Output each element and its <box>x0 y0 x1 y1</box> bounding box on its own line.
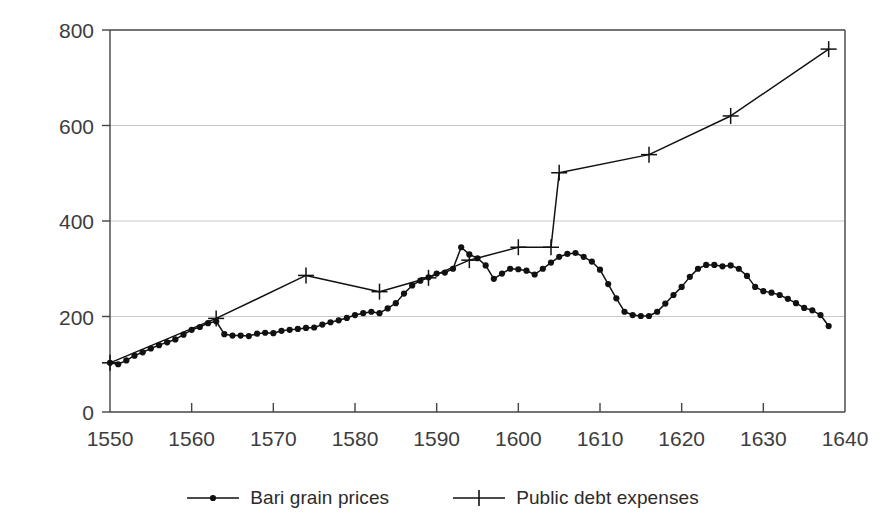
legend-item-bari-grain-prices[interactable]: Bari grain prices <box>185 487 389 509</box>
svg-text:1600: 1600 <box>495 427 542 450</box>
svg-text:1550: 1550 <box>87 427 134 450</box>
dot-line-marker-icon <box>185 490 241 506</box>
svg-text:1560: 1560 <box>168 427 215 450</box>
chart-container: 0200400600800155015601570158015901600161… <box>0 0 884 531</box>
line-chart-plot: 0200400600800155015601570158015901600161… <box>0 0 884 531</box>
data-series-group <box>102 41 837 371</box>
svg-text:1640: 1640 <box>822 427 869 450</box>
svg-text:1610: 1610 <box>577 427 624 450</box>
plus-line-marker-icon <box>451 489 507 507</box>
svg-text:1630: 1630 <box>740 427 787 450</box>
series-public-debt-expenses <box>102 41 837 371</box>
svg-text:400: 400 <box>59 210 94 233</box>
svg-text:1570: 1570 <box>250 427 297 450</box>
svg-text:1590: 1590 <box>413 427 460 450</box>
legend-label-public-debt-expenses: Public debt expenses <box>516 487 699 509</box>
svg-text:1620: 1620 <box>658 427 705 450</box>
svg-text:800: 800 <box>59 19 94 42</box>
svg-text:200: 200 <box>59 306 94 329</box>
tick-label-group: 0200400600800155015601570158015901600161… <box>59 19 868 450</box>
svg-text:600: 600 <box>59 115 94 138</box>
legend-item-public-debt-expenses[interactable]: Public debt expenses <box>451 487 699 509</box>
legend-label-bari-grain-prices: Bari grain prices <box>250 487 389 509</box>
svg-text:1580: 1580 <box>332 427 379 450</box>
gridline-group <box>110 126 845 317</box>
svg-text:0: 0 <box>82 401 94 424</box>
chart-legend: Bari grain prices Public debt expenses <box>0 487 884 509</box>
